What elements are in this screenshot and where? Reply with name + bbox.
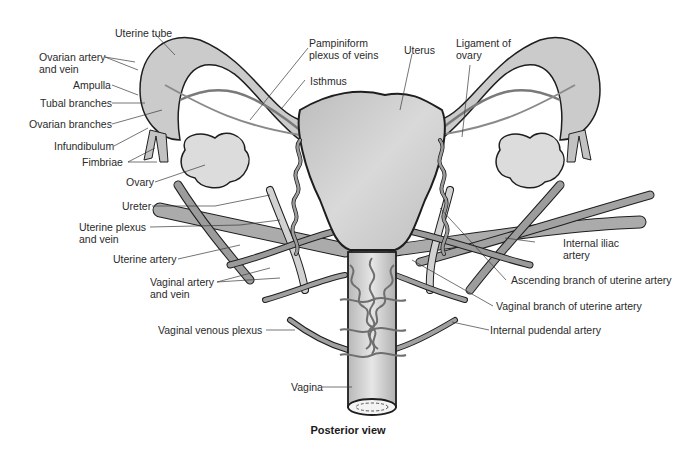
anatomy-figure: Uterine tube Ovarian artery and vein Amp… xyxy=(0,0,696,453)
label-ovarian-branches: Ovarian branches xyxy=(29,118,112,130)
label-vaginal-branch: Vaginal branch of uterine artery xyxy=(496,300,642,312)
label-vagina: Vagina xyxy=(291,381,323,393)
figure-caption: Posterior view xyxy=(0,424,696,436)
label-ampulla: Ampulla xyxy=(73,79,111,91)
label-line-2: and vein xyxy=(79,233,146,245)
label-line-1: Uterine plexus xyxy=(79,221,146,233)
label-line-2: and vein xyxy=(150,288,214,300)
label-line-1: Vaginal artery xyxy=(150,276,214,288)
label-line-1: Ovarian artery xyxy=(39,51,106,63)
label-fimbriae: Fimbriae xyxy=(82,156,123,168)
label-vaginal-venous-plexus: Vaginal venous plexus xyxy=(158,324,262,336)
label-uterine-plexus-vein: Uterine plexus and vein xyxy=(79,221,146,245)
label-pampiniform-plexus: Pampiniform plexus of veins xyxy=(309,37,378,61)
label-ovary: Ovary xyxy=(126,176,154,188)
label-internal-iliac-artery: Internal iliac artery xyxy=(563,237,619,261)
label-tubal-branches: Tubal branches xyxy=(40,97,112,109)
label-ureter: Ureter xyxy=(122,200,151,212)
label-line-1: Internal iliac xyxy=(563,237,619,249)
label-infundibulum: Infundibulum xyxy=(54,140,114,152)
label-uterine-artery: Uterine artery xyxy=(113,253,177,265)
label-isthmus: Isthmus xyxy=(310,75,347,87)
label-line-2: artery xyxy=(563,249,619,261)
label-uterus: Uterus xyxy=(404,44,435,56)
label-uterine-tube: Uterine tube xyxy=(115,27,172,39)
label-line-1: Pampiniform xyxy=(309,37,378,49)
label-vaginal-artery-vein: Vaginal artery and vein xyxy=(150,276,214,300)
label-ligament-of-ovary: Ligament of ovary xyxy=(456,37,511,61)
label-line-2: and vein xyxy=(39,63,106,75)
vagina xyxy=(340,252,406,415)
label-ovarian-artery-vein: Ovarian artery and vein xyxy=(39,51,106,75)
label-internal-pudendal-artery: Internal pudendal artery xyxy=(490,324,601,336)
label-ascending-branch: Ascending branch of uterine artery xyxy=(511,274,672,286)
label-line-2: ovary xyxy=(456,49,511,61)
uterus-body xyxy=(299,92,445,250)
label-line-2: plexus of veins xyxy=(309,49,378,61)
label-line-1: Ligament of xyxy=(456,37,511,49)
